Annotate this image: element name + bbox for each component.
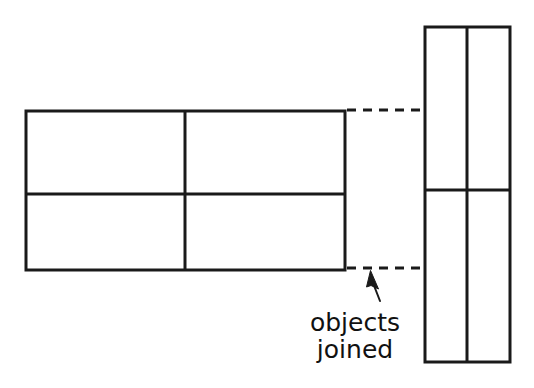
figure-root: objects joined xyxy=(0,0,534,388)
annotation-text-group: objects joined xyxy=(310,308,400,364)
technical-drawing-svg: objects joined xyxy=(0,0,534,388)
annotation-line-1: objects xyxy=(310,308,400,337)
annotation-line-2: joined xyxy=(316,335,393,364)
